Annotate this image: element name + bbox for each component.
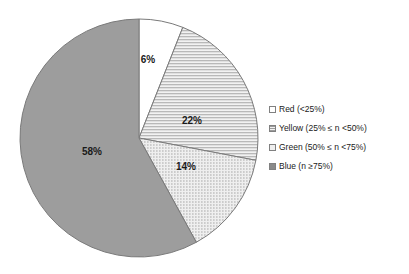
chart-legend: Red (<25%) Yellow (25% ≤ n <50%) Green (…	[269, 100, 409, 176]
white-swatch-icon	[269, 106, 276, 113]
pie-slices	[20, 19, 258, 257]
dotted-swatch-icon	[269, 144, 276, 151]
legend-item-red[interactable]: Red (<25%)	[269, 100, 409, 118]
legend-item-label: Blue (n ≥75%)	[279, 162, 333, 171]
slice-label-green: 14%	[176, 161, 196, 172]
gray-swatch-icon	[269, 163, 276, 170]
slice-label-blue: 58%	[82, 146, 102, 157]
slice-label-yellow: 22%	[182, 115, 202, 126]
legend-item-label: Green (50% ≤ n <75%)	[279, 143, 366, 152]
slice-label-red: 6%	[141, 54, 156, 65]
legend-item-label: Yellow (25% ≤ n <50%)	[279, 124, 367, 133]
legend-item-yellow[interactable]: Yellow (25% ≤ n <50%)	[269, 119, 409, 137]
legend-item-blue[interactable]: Blue (n ≥75%)	[269, 157, 409, 175]
striped-swatch-icon	[269, 125, 276, 132]
legend-item-green[interactable]: Green (50% ≤ n <75%)	[269, 138, 409, 156]
legend-item-label: Red (<25%)	[279, 105, 325, 114]
pie-chart-figure: 6% 22% 14% 58% Red (<25%) Yellow (25% ≤ …	[0, 0, 409, 274]
